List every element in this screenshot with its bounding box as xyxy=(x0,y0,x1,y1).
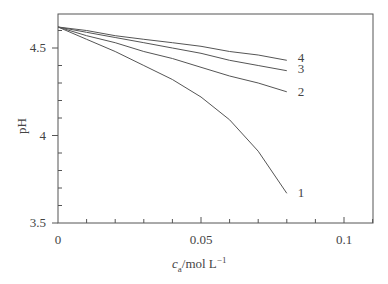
chart-canvas: 00.050.13.544.51234 xyxy=(0,0,388,284)
curve-label-1: 1 xyxy=(298,185,305,200)
curve-2 xyxy=(58,27,287,92)
curve-label-2: 2 xyxy=(298,84,305,99)
y-tick-label: 3.5 xyxy=(30,215,46,230)
y-axis-label-text: pH xyxy=(14,118,30,134)
curve-3 xyxy=(58,27,287,71)
y-tick-label: 4.5 xyxy=(30,40,46,55)
y-tick-label: 4 xyxy=(40,128,47,143)
x-label-sup: −1 xyxy=(217,255,227,265)
x-label-unit: /mol L xyxy=(182,256,217,271)
curve-1 xyxy=(58,27,287,193)
y-axis-label: pH xyxy=(14,118,30,134)
curve-label-4: 4 xyxy=(298,50,305,65)
x-axis-label: ca/mol L−1 xyxy=(172,255,226,274)
x-tick-label: 0.1 xyxy=(336,232,352,247)
curve-4 xyxy=(58,27,287,60)
plot-frame xyxy=(58,14,373,223)
x-tick-label: 0 xyxy=(55,232,62,247)
x-tick-label: 0.05 xyxy=(190,232,213,247)
